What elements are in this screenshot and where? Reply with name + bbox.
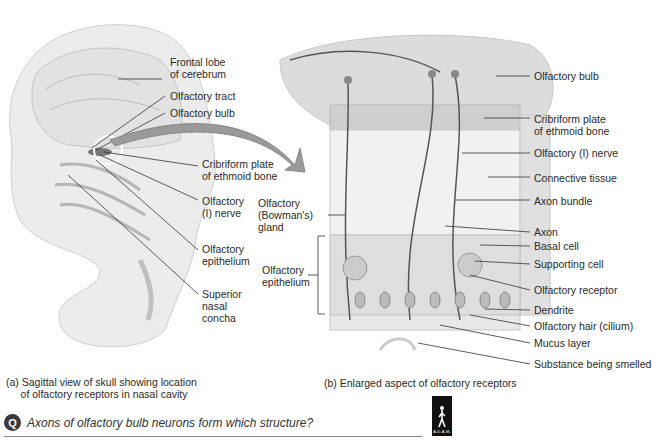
label-dendrite: Dendrite: [534, 304, 574, 316]
label-olfactory-bulb-b: Olfactory bulb: [534, 70, 599, 82]
label-olfactory-receptor: Olfactory receptor: [534, 284, 617, 296]
olfactory-tissue-drawing: [280, 35, 553, 350]
caption-panel-a: (a) Sagittal view of skull showing locat…: [6, 376, 197, 400]
label-olfactory-hair: Olfactory hair (cilium): [534, 320, 633, 332]
label-olfactory-epithelium-b: Olfactory epithelium: [262, 264, 310, 288]
label-cribriform-a: Cribriform plate of ethmoid bone: [202, 158, 277, 182]
label-olfactory-bulb-a: Olfactory bulb: [170, 107, 235, 119]
question-row: Q Axons of olfactory bulb neurons form w…: [4, 414, 313, 431]
question-badge-icon: Q: [4, 414, 21, 431]
adam-logo: A.D.A.M.: [432, 396, 452, 436]
label-axon-bundle: Axon bundle: [534, 195, 592, 207]
bowmans-gland-shape: [343, 256, 367, 280]
walking-figure-icon: [436, 405, 448, 429]
label-bowmans-gland: Olfactory (Bowman's) gland: [258, 197, 313, 233]
label-superior-nasal-concha: Superior nasal concha: [202, 288, 242, 324]
label-frontal-lobe: Frontal lobe of cerebrum: [170, 56, 226, 80]
label-olfactory-nerve-a: Olfactory (I) nerve: [202, 195, 244, 219]
label-cribriform-b: Cribriform plate of ethmoid bone: [534, 113, 609, 137]
question-divider: [4, 436, 422, 437]
label-olfactory-epithelium-a: Olfactory epithelium: [202, 243, 250, 267]
question-text: Axons of olfactory bulb neurons form whi…: [27, 416, 313, 430]
label-olfactory-nerve-b: Olfactory (I) nerve: [534, 147, 618, 159]
label-basal-cell: Basal cell: [534, 240, 579, 252]
label-connective-tissue: Connective tissue: [534, 172, 617, 184]
label-mucus-layer: Mucus layer: [534, 337, 591, 349]
label-olfactory-tract: Olfactory tract: [170, 90, 235, 102]
label-supporting-cell: Supporting cell: [534, 258, 603, 270]
caption-panel-b: (b) Enlarged aspect of olfactory recepto…: [324, 377, 517, 389]
label-substance-being-smelled: Substance being smelled: [534, 358, 651, 370]
logo-text: A.D.A.M.: [433, 429, 451, 434]
label-axon: Axon: [534, 226, 558, 238]
